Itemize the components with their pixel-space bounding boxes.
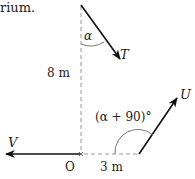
force-U-arrow [139, 98, 177, 154]
label-alpha: α [84, 30, 92, 42]
label-V: V [8, 136, 17, 149]
label-U: U [180, 88, 191, 101]
force-diagram: rium. T α 8 m V O 3 m U (α + 90)° [0, 0, 195, 179]
label-3m: 3 m [100, 161, 123, 173]
diagram-graphics [0, 0, 195, 179]
label-origin: O [65, 161, 75, 173]
label-u-angle: (α + 90)° [95, 111, 151, 123]
label-8m: 8 m [47, 67, 70, 79]
caption-fragment: rium. [0, 1, 35, 14]
label-T: T [120, 48, 129, 61]
